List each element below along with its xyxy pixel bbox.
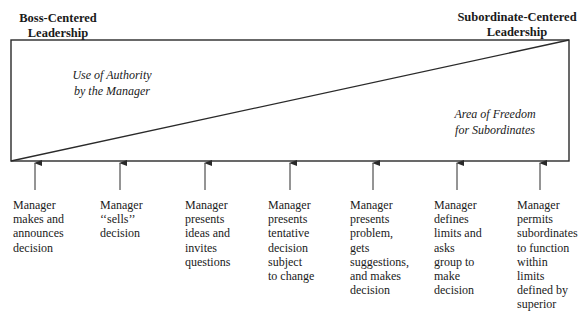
behavior-line: within [517,255,579,269]
behavior-line: Manager [434,198,516,212]
behavior-line: defines [434,212,516,226]
behavior-line: Manager [185,198,267,212]
behavior-line: subject [268,255,350,269]
behavior-line: permits [517,212,579,226]
behavior-6: Manager defines limits and asks group to… [434,198,516,297]
behavior-3: Manager presents ideas and invites quest… [185,198,267,269]
behavior-line: tentative [268,226,350,240]
behavior-line: questions [185,255,267,269]
behavior-line: Manager [268,198,350,212]
behavior-5: Manager presents problem, gets suggestio… [350,198,432,297]
behavior-line: announces [13,226,95,240]
behavior-line: limits and [434,226,516,240]
behavior-line: decision [350,283,432,297]
behavior-line: group to [434,255,516,269]
behavior-line: presents [350,212,432,226]
region-line: Use of Authority [62,67,162,83]
behavior-line: make [434,269,516,283]
behavior-line: presents [268,212,350,226]
behavior-line: Manager [517,198,579,212]
behavior-7: Manager permits subordinates to function… [517,198,579,312]
behavior-line: subordinates [517,226,579,240]
behavior-line: presents [185,212,267,226]
behavior-line: makes and [13,212,95,226]
behavior-line: decision [100,226,182,240]
behavior-line: limits [517,269,579,283]
behavior-line: suggestions, [350,255,432,269]
behavior-line: defined by [517,283,579,297]
behavior-line: decision [13,241,95,255]
behavior-line: to function [517,241,579,255]
behavior-line: decision [434,283,516,297]
behavior-line: ideas and [185,226,267,240]
behavior-2: Manager ‘‘sells’’ decision [100,198,182,241]
use-of-authority-label: Use of Authority by the Manager [62,67,162,99]
behavior-line: invites [185,241,267,255]
behavior-line: decision [268,241,350,255]
area-of-freedom-label: Area of Freedom for Subordinates [440,106,550,138]
authority-freedom-diagonal [11,40,569,161]
behavior-line: Manager [100,198,182,212]
region-line: for Subordinates [440,122,550,138]
behavior-line: Manager [350,198,432,212]
behavior-4: Manager presents tentative decision subj… [268,198,350,283]
behavior-line: Manager [13,198,95,212]
behavior-arrows [35,163,540,190]
region-line: by the Manager [62,83,162,99]
behavior-1: Manager makes and announces decision [13,198,95,255]
region-line: Area of Freedom [440,106,550,122]
behavior-line: and makes [350,269,432,283]
behavior-line: ‘‘sells’’ [100,212,182,226]
behavior-line: superior [517,297,579,311]
behavior-line: asks [434,241,516,255]
behavior-line: to change [268,269,350,283]
behavior-line: problem, [350,226,432,240]
behavior-line: gets [350,241,432,255]
